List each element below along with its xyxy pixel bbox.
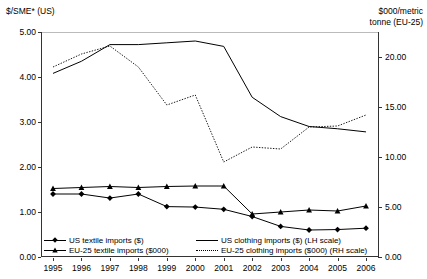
series-marker (50, 191, 56, 197)
series-4 (50, 183, 369, 216)
series-1 (53, 41, 366, 132)
series-marker (192, 204, 198, 210)
series-line (53, 194, 366, 230)
series-marker (363, 225, 369, 231)
series-marker (79, 191, 85, 197)
series-marker (164, 204, 170, 210)
series-marker (335, 227, 341, 233)
legend-item[interactable]: EU-25 textile imports ($000) (44, 246, 169, 255)
chart-figure: $/SME* (US) $000/metric tonne (EU-25) 0.… (0, 0, 427, 279)
series-marker (278, 224, 284, 230)
legend-label: US clothing imports ($) (LH scale) (221, 236, 341, 245)
series-marker (221, 206, 227, 212)
legend-label: EU-25 textile imports ($000) (69, 246, 169, 255)
series-line (53, 41, 366, 132)
legend-item[interactable]: US textile imports ($) (44, 236, 144, 245)
legend-item[interactable]: EU-25 clothing imports ($000) (RH scale) (196, 246, 367, 255)
legend-label: EU-25 clothing imports ($000) (RH scale) (221, 246, 367, 255)
legend-swatch (44, 246, 66, 255)
series-marker (107, 195, 113, 201)
series-3 (50, 191, 369, 233)
legend-swatch (196, 246, 218, 255)
legend-item[interactable]: US clothing imports ($) (LH scale) (196, 236, 341, 245)
series-marker (135, 191, 141, 197)
triangle-marker (52, 247, 58, 253)
series-marker (363, 203, 369, 208)
diamond-marker (52, 237, 58, 243)
series-line (53, 186, 366, 214)
series-marker (306, 227, 312, 233)
legend-swatch (44, 236, 66, 245)
series-line (53, 46, 366, 162)
legend-swatch (196, 236, 218, 245)
series-2 (53, 46, 366, 162)
legend-label: US textile imports ($) (69, 236, 144, 245)
